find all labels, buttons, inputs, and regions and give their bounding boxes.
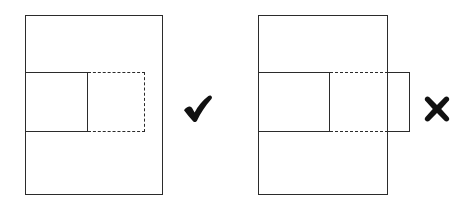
inner-solid-rect-incorrect: [258, 72, 330, 132]
inner-dashed-rect-incorrect: [330, 72, 388, 132]
inner-solid-rect-correct: [25, 72, 88, 132]
checkmark-icon: [181, 92, 215, 126]
overflow-rect-incorrect: [388, 72, 410, 132]
panel-incorrect: Incorrect: [232, 0, 465, 207]
diagram-canvas: Correct Incorrect: [0, 0, 465, 207]
inner-dashed-rect-correct: [88, 72, 145, 132]
panel-incorrect-label: Incorrect: [232, 0, 233, 1]
panel-correct: Correct: [0, 0, 232, 207]
panel-correct-label: Correct: [0, 0, 1, 1]
cross-icon: [420, 92, 454, 126]
